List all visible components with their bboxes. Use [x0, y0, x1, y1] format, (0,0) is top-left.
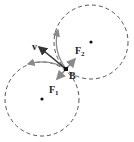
center-dot-1 — [40, 97, 43, 100]
center-dot-2 — [89, 40, 92, 43]
force1-label: F1 — [49, 84, 59, 97]
two-circle-force-diagram: v F2 B F1 — [0, 0, 134, 142]
force1-label-sub: 1 — [55, 89, 59, 97]
velocity-arrow — [39, 47, 66, 69]
point-b-marker — [64, 67, 68, 71]
point-b-label: B — [69, 70, 76, 81]
force2-label-sub: 2 — [81, 50, 85, 58]
velocity-label: v — [32, 41, 37, 52]
force2-label: F2 — [75, 45, 85, 58]
